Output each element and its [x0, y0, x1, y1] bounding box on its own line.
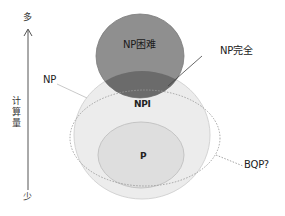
np-label: NP [43, 75, 56, 85]
axis-title-char: 量 [11, 118, 21, 129]
npi-label: NPI [134, 100, 151, 109]
bqp-leader-line [216, 155, 243, 166]
np-hard-label: NP困难 [123, 40, 155, 50]
np-leader-line [57, 84, 87, 98]
axis-title-char: 算 [11, 107, 21, 118]
axis-title: 计 算 量 [11, 96, 21, 129]
bqp-label: BQP? [244, 160, 269, 170]
p-label: P [140, 152, 146, 161]
np-complete-label: NP完全 [220, 46, 252, 56]
axis-top-label: 多 [23, 13, 32, 22]
axis-bottom-label: 少 [23, 193, 32, 202]
axis-title-char: 计 [11, 96, 21, 107]
